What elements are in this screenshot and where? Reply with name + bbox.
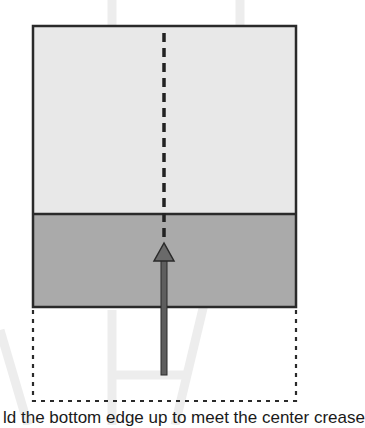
instruction-caption: ld the bottom edge up to meet the center… [3,408,323,428]
